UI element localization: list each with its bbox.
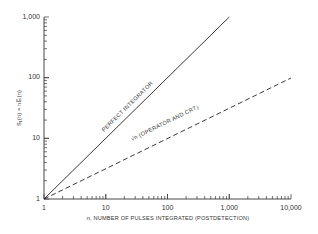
y-tick-label-1000: 1,000	[22, 13, 40, 20]
x-tick-label-1000: 1,000	[220, 204, 238, 211]
y-tick-label-100: 100	[28, 73, 40, 80]
y-axis-ticks	[44, 17, 49, 199]
x-tick-labels: 1 10 100 1,000 10,000	[42, 204, 302, 211]
y-tick-labels: 1 10 100 1,000	[22, 13, 40, 202]
sqrt-n-dashed-line	[44, 78, 291, 199]
perfect-integrator-line	[44, 17, 229, 199]
y-tick-label-1: 1	[36, 195, 40, 202]
x-tick-label-10: 10	[102, 204, 110, 211]
x-tick-label-1: 1	[42, 204, 46, 211]
axes	[44, 17, 291, 199]
log-log-chart: 1 10 100 1,000 1 10 100 1,000 10,000 n, …	[0, 0, 318, 234]
x-axis-ticks	[44, 194, 291, 199]
y-axis-title: S₁(n) = nE̅ᵢ(n)	[16, 90, 22, 126]
x-tick-label-10000: 10,000	[280, 204, 302, 211]
x-tick-label-100: 100	[162, 204, 174, 211]
x-axis-title: n, NUMBER OF PULSES INTEGRATED (POSTDETE…	[87, 215, 250, 221]
sqrt-n-label: √n (OPERATOR AND CRT)	[130, 104, 200, 142]
perfect-integrator-label: PERFECT INTEGRATOR	[100, 80, 154, 133]
y-tick-label-10: 10	[32, 134, 40, 141]
